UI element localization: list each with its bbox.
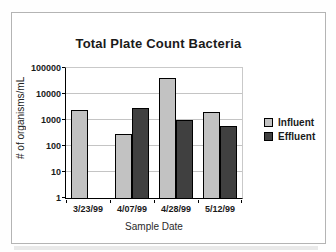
bar-effluent-4/07/99 [132,108,149,198]
y-tick-label-1000: 1000 [26,115,61,125]
bar-influent-4/28/99 [159,78,176,198]
y-tick-label-100: 100 [26,141,61,151]
bar-influent-4/07/99 [115,134,132,198]
gridline-10000 [66,93,242,94]
y-axis-tick-labels: 100000100001000100101 [26,67,61,198]
x-axis-tick-labels: 3/23/994/07/994/28/995/12/99 [66,204,242,216]
legend: InfluentEffluent [264,115,315,143]
legend-item-influent: Influent [264,115,315,129]
y-tick-mark-1 [62,197,65,198]
y-tick-label-10: 10 [26,167,61,177]
y-tick-label-100000: 100000 [26,63,61,73]
x-tick-mark-2 [154,200,155,203]
chart-title: Total Plate Count Bacteria [56,36,261,51]
x-tick-label-4/28/99: 4/28/99 [154,204,198,214]
legend-swatch-effluent [264,132,273,141]
x-tick-mark-1 [110,200,111,203]
legend-item-effluent: Effluent [264,129,315,143]
screenshot-page: Total Plate Count Bacteria # of organism… [0,0,336,252]
x-tick-mark-0 [66,200,67,203]
y-tick-mark-10 [62,171,65,172]
x-tick-label-5/12/99: 5/12/99 [198,204,242,214]
plot-area [65,67,243,199]
x-tick-label-3/23/99: 3/23/99 [66,204,110,214]
bar-influent-5/12/99 [203,112,220,198]
y-tick-mark-1000 [62,119,65,120]
x-tick-mark-3 [198,200,199,203]
legend-label-influent: Influent [278,117,314,128]
y-tick-label-1: 1 [26,193,61,203]
legend-label-effluent: Effluent [278,131,315,142]
y-tick-mark-10000 [62,93,65,94]
page-edge-shadow [14,246,318,250]
x-tick-label-4/07/99: 4/07/99 [110,204,154,214]
x-tick-mark-end [241,200,242,203]
bar-effluent-5/12/99 [220,126,237,198]
legend-swatch-influent [264,118,273,127]
bar-influent-3/23/99 [71,110,88,198]
y-tick-label-10000: 10000 [26,89,61,99]
y-tick-mark-100000 [62,67,65,68]
bar-effluent-4/28/99 [176,120,193,198]
x-axis-title: Sample Date [66,221,242,232]
y-tick-mark-100 [62,145,65,146]
